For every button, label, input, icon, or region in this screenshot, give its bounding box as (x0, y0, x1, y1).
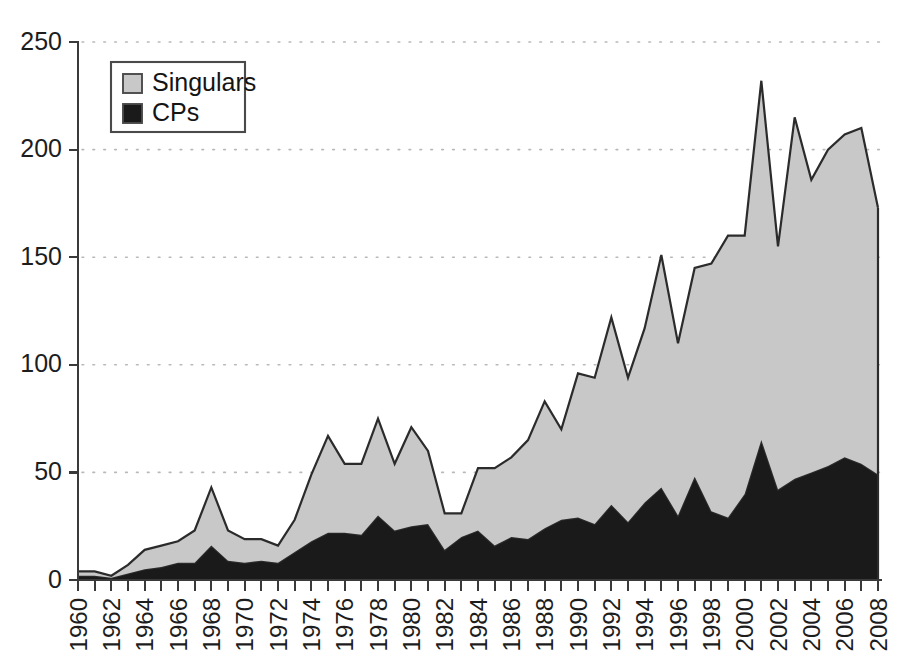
y-tick-label-150: 150 (20, 242, 62, 270)
x-tick-label-2006: 2006 (831, 598, 858, 651)
x-tick-label-1970: 1970 (231, 598, 258, 651)
x-tick-label-2008: 2008 (865, 598, 892, 651)
x-tick-label-1960: 1960 (65, 598, 92, 651)
y-tick-label-100: 100 (20, 349, 62, 377)
x-tick-label-1972: 1972 (265, 598, 292, 651)
legend-label-cps: CPs (152, 98, 199, 126)
x-tick-label-1974: 1974 (298, 598, 325, 651)
y-tick-label-50: 50 (34, 457, 62, 485)
x-tick-label-1988: 1988 (531, 598, 558, 651)
chart-legend: Singulars CPs (111, 62, 256, 132)
x-tick-label-1980: 1980 (398, 598, 425, 651)
stacked-area-chart: 050100150200250 196019621964196619681970… (0, 0, 920, 670)
x-tick-label-1994: 1994 (631, 598, 658, 651)
x-tick-label-1984: 1984 (465, 598, 492, 651)
x-tick-label-1986: 1986 (498, 598, 525, 651)
y-tick-label-200: 200 (20, 134, 62, 162)
x-tick-label-1976: 1976 (331, 598, 358, 651)
x-tick-label-1978: 1978 (365, 598, 392, 651)
x-tick-label-2004: 2004 (798, 598, 825, 651)
x-tick-label-1962: 1962 (98, 598, 125, 651)
chart-container: 050100150200250 196019621964196619681970… (0, 0, 920, 670)
x-tick-label-2000: 2000 (731, 598, 758, 651)
x-tick-label-1966: 1966 (165, 598, 192, 651)
x-axis-tick-labels: 1960196219641966196819701972197419761978… (65, 598, 892, 651)
x-tick-label-1996: 1996 (665, 598, 692, 651)
x-tick-label-1982: 1982 (431, 598, 458, 651)
y-tick-label-0: 0 (48, 565, 62, 593)
x-tick-label-1992: 1992 (598, 598, 625, 651)
x-tick-label-1968: 1968 (198, 598, 225, 651)
x-tick-label-1990: 1990 (565, 598, 592, 651)
x-tick-label-1964: 1964 (131, 598, 158, 651)
legend-swatch-cps (123, 104, 142, 123)
legend-label-singulars: Singulars (152, 68, 256, 96)
y-tick-label-250: 250 (20, 27, 62, 55)
x-tick-label-2002: 2002 (765, 598, 792, 651)
legend-swatch-singulars (123, 74, 142, 93)
x-tick-label-1998: 1998 (698, 598, 725, 651)
